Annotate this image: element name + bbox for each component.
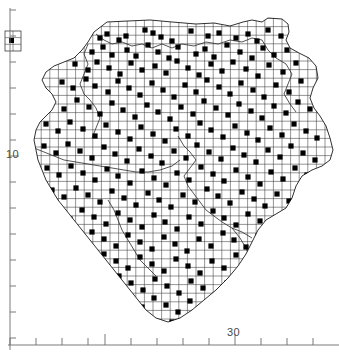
occurrence-dot bbox=[220, 230, 225, 235]
occurrence-dot bbox=[152, 276, 157, 281]
y-axis-ticks bbox=[10, 10, 19, 338]
occurrence-dot bbox=[187, 298, 192, 303]
occurrence-dot bbox=[286, 89, 291, 94]
occurrence-dot bbox=[67, 216, 72, 221]
occurrence-dot bbox=[219, 68, 224, 73]
occurrence-dot bbox=[196, 236, 201, 241]
occurrence-dot bbox=[286, 198, 291, 203]
occurrence-dot bbox=[238, 80, 243, 85]
occurrence-dot bbox=[255, 137, 260, 142]
occurrence-dot bbox=[193, 317, 198, 322]
occurrence-dot bbox=[133, 202, 138, 207]
occurrence-dot bbox=[186, 177, 191, 182]
occurrence-dot bbox=[292, 220, 297, 225]
occurrence-dot bbox=[145, 42, 150, 47]
occurrence-dot bbox=[116, 37, 121, 42]
occurrence-dot bbox=[198, 221, 203, 226]
occurrence-dot bbox=[89, 49, 94, 54]
occurrence-dot bbox=[124, 47, 129, 52]
distribution-map-figure: 10 30 bbox=[0, 0, 339, 356]
occurrence-dot bbox=[101, 144, 106, 149]
occurrence-dot bbox=[67, 119, 72, 124]
occurrence-dot bbox=[163, 302, 168, 307]
occurrence-dot bbox=[216, 84, 221, 89]
occurrence-dot bbox=[163, 70, 168, 75]
occurrence-dot bbox=[92, 133, 97, 138]
occurrence-dot bbox=[293, 60, 298, 65]
occurrence-dot bbox=[292, 165, 297, 170]
occurrence-dot bbox=[55, 128, 60, 133]
occurrence-dot bbox=[278, 33, 283, 38]
occurrence-dot bbox=[158, 34, 163, 39]
occurrence-dot bbox=[190, 111, 195, 116]
occurrence-dot bbox=[61, 106, 66, 111]
occurrence-dot bbox=[204, 77, 209, 82]
occurrence-dot bbox=[59, 79, 64, 84]
occurrence-dot bbox=[224, 42, 229, 47]
occurrence-dot bbox=[183, 155, 188, 160]
occurrence-dot bbox=[185, 263, 190, 268]
occurrence-dot bbox=[284, 47, 289, 52]
occurrence-dot bbox=[139, 224, 144, 229]
occurrence-dot bbox=[212, 292, 217, 297]
occurrence-dot bbox=[77, 238, 82, 243]
occurrence-dot bbox=[137, 239, 142, 244]
occurrence-dot bbox=[43, 121, 48, 126]
occurrence-dot bbox=[218, 156, 223, 161]
occurrence-dot bbox=[211, 54, 216, 59]
occurrence-dot bbox=[128, 280, 133, 285]
occurrence-dot bbox=[175, 309, 180, 314]
occurrence-dot bbox=[221, 178, 226, 183]
occurrence-dot bbox=[255, 73, 260, 78]
occurrence-dot bbox=[257, 266, 262, 271]
occurrence-dot bbox=[236, 101, 241, 106]
occurrence-dot bbox=[155, 109, 160, 114]
occurrence-dot bbox=[257, 218, 262, 223]
occurrence-dot bbox=[208, 61, 213, 66]
occurrence-dot bbox=[289, 30, 294, 35]
occurrence-dot bbox=[150, 131, 155, 136]
occurrence-dot bbox=[105, 89, 110, 94]
occurrence-dot bbox=[92, 83, 97, 88]
occurrence-dot bbox=[124, 158, 129, 163]
occurrence-dot bbox=[279, 132, 284, 137]
occurrence-dot bbox=[151, 212, 156, 217]
occurrence-dot bbox=[104, 31, 109, 36]
occurrence-dot bbox=[103, 122, 108, 127]
occurrence-dot bbox=[173, 126, 178, 131]
occurrence-dot bbox=[265, 27, 270, 32]
occurrence-dot bbox=[128, 60, 133, 65]
occurrence-dot bbox=[210, 208, 215, 213]
occurrence-dot bbox=[115, 173, 120, 178]
occurrence-dot bbox=[113, 243, 118, 248]
occurrence-dot bbox=[233, 167, 238, 172]
occurrence-dot bbox=[104, 282, 109, 287]
occurrence-dot bbox=[72, 61, 77, 66]
occurrence-dot bbox=[261, 94, 266, 99]
occurrence-dot bbox=[160, 87, 165, 92]
occurrence-dot bbox=[74, 97, 79, 102]
occurrence-dot bbox=[251, 196, 256, 201]
occurrence-dot bbox=[271, 103, 276, 108]
occurrence-dot bbox=[162, 219, 167, 224]
occurrence-dot bbox=[97, 111, 102, 116]
occurrence-dot bbox=[182, 82, 187, 87]
occurrence-dot bbox=[127, 217, 132, 222]
occurrence-dot bbox=[103, 221, 108, 226]
occurrence-dot bbox=[197, 120, 202, 125]
occurrence-dot bbox=[248, 108, 253, 113]
occurrence-dot bbox=[233, 252, 238, 257]
occurrence-dot bbox=[115, 129, 120, 134]
region-outline bbox=[34, 18, 333, 322]
occurrence-dot bbox=[221, 265, 226, 270]
occurrence-dot bbox=[127, 297, 132, 302]
occurrence-dot bbox=[205, 323, 210, 328]
occurrence-dot bbox=[202, 46, 207, 51]
occurrence-dot bbox=[233, 222, 238, 227]
occurrence-dot bbox=[243, 244, 248, 249]
occurrence-dot bbox=[312, 157, 317, 162]
occurrence-dot bbox=[283, 110, 288, 115]
occurrence-dot bbox=[198, 164, 203, 169]
occurrence-dot bbox=[244, 130, 249, 135]
x-axis-label-30: 30 bbox=[227, 326, 240, 338]
